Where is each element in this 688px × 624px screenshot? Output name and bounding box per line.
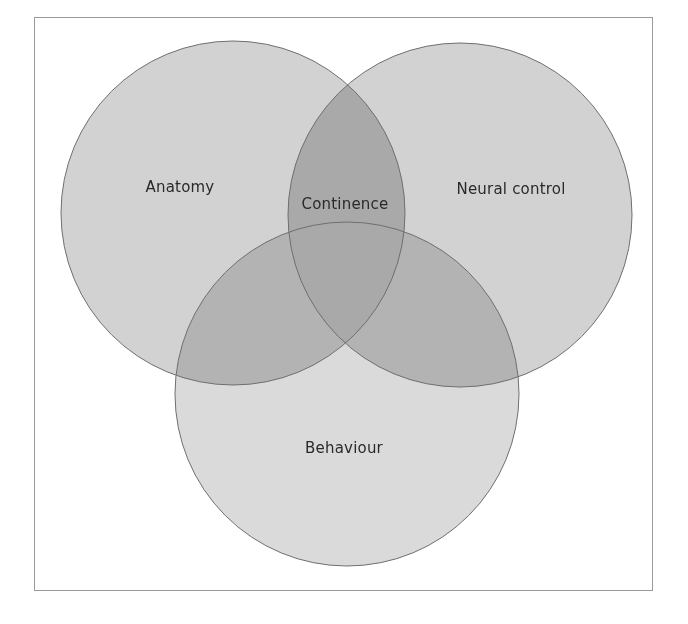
behaviour-label: Behaviour	[305, 439, 383, 457]
continence-label: Continence	[302, 195, 389, 213]
anatomy-label: Anatomy	[146, 178, 215, 196]
neural-control-label: Neural control	[456, 180, 565, 198]
venn-diagram	[0, 0, 688, 624]
